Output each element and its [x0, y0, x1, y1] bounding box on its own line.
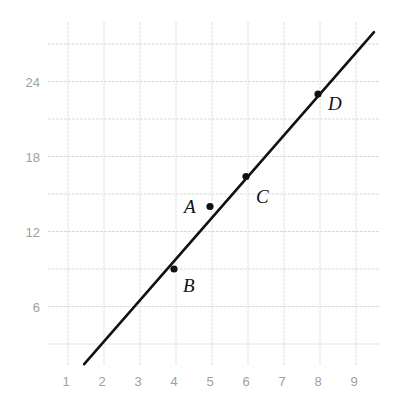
- y-tick-label: 12: [26, 225, 40, 240]
- data-points: ABCD: [170, 90, 342, 296]
- x-tick-label: 4: [170, 374, 177, 389]
- x-tick-label: 3: [134, 374, 141, 389]
- x-tick-label: 2: [98, 374, 105, 389]
- x-tick-label: 6: [242, 374, 249, 389]
- x-tick-label: 5: [206, 374, 213, 389]
- x-axis-tick-labels: 123456789: [62, 374, 357, 389]
- y-tick-label: 6: [33, 300, 40, 315]
- point-a: [206, 203, 213, 210]
- point-label-a: A: [182, 196, 196, 217]
- point-c: [242, 173, 249, 180]
- x-tick-label: 7: [278, 374, 285, 389]
- scatter-plot: 123456789 6121824 ABCD: [0, 0, 394, 406]
- y-axis-tick-labels: 6121824: [26, 75, 40, 315]
- horizontal-gridlines: [48, 44, 380, 344]
- x-tick-label: 9: [350, 374, 357, 389]
- point-label-b: B: [183, 275, 195, 296]
- y-tick-label: 18: [26, 150, 40, 165]
- x-tick-label: 8: [314, 374, 321, 389]
- x-tick-label: 1: [62, 374, 69, 389]
- y-tick-label: 24: [26, 75, 40, 90]
- point-d: [314, 90, 321, 97]
- point-b: [170, 265, 177, 272]
- point-label-d: D: [327, 93, 342, 114]
- point-label-c: C: [256, 186, 269, 207]
